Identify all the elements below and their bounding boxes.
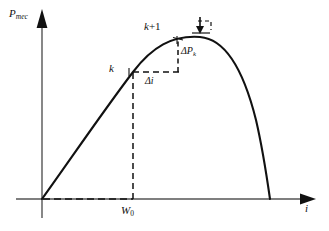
x-axis-label: i [305,203,308,214]
point-k-plus-1-label: k+1 [144,21,161,32]
point-k-label: k [109,63,114,74]
w0-label-subscript: 0 [130,209,134,218]
delta-p-k-label: ΔPk [181,46,196,58]
w0-label: W0 [121,205,134,218]
y-axis-label-subscript: mec [16,12,28,21]
point-k-plus-1-label-rest: +1 [149,20,161,32]
delta-i-label: Δi [145,76,154,86]
plot-svg [0,0,329,231]
y-axis-arrow-icon [37,9,48,28]
y-axis-label-base: P [9,7,16,19]
power-curve [42,37,270,199]
delta-p-k-label-subscript: k [193,50,196,57]
w0-label-base: W [121,204,130,216]
delta-p-k-label-base: ΔP [181,45,193,56]
figure-canvas: Pmec i k k+1 Δi ΔPk W0 [0,0,329,231]
y-axis-label: Pmec [9,8,28,21]
